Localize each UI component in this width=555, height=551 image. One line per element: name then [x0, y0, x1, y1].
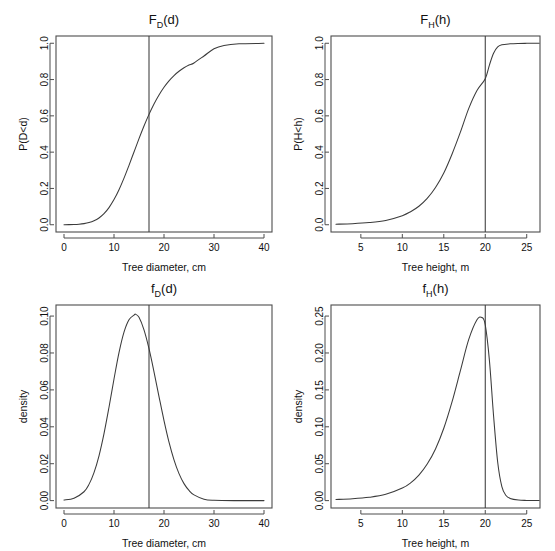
x-tick-label: 15 [438, 242, 450, 253]
data-curve [64, 43, 264, 224]
y-tick-label: 0.6 [314, 108, 325, 122]
plot-box [56, 36, 272, 232]
x-tick-label: 5 [358, 518, 364, 529]
panel-title: fD(d) [151, 281, 177, 299]
x-tick-label: 40 [258, 518, 270, 529]
y-tick-label: 0.0 [39, 217, 50, 231]
x-axis-label: Tree height, m [402, 261, 470, 273]
y-tick-label: 0.2 [314, 181, 325, 195]
y-axis-label: P(H<h) [292, 117, 304, 151]
x-tick-label: 20 [158, 242, 170, 253]
y-axis-label: P(D<d) [17, 117, 29, 151]
y-axis-label: density [292, 389, 304, 423]
x-tick-label: 0 [61, 518, 67, 529]
x-tick-label: 25 [521, 518, 533, 529]
y-tick-label: 0.04 [39, 417, 50, 437]
y-tick-label: 0.15 [314, 380, 325, 400]
y-tick-label: 0.08 [39, 343, 50, 363]
panel-title: fH(h) [422, 281, 448, 299]
x-tick-label: 20 [480, 518, 492, 529]
plot-box [331, 305, 540, 508]
y-tick-label: 0.05 [314, 454, 325, 474]
y-tick-label: 0.25 [314, 306, 325, 326]
panel-title: FD(d) [149, 12, 179, 30]
plot-box [56, 305, 272, 508]
data-curve [64, 314, 264, 501]
panel-title-base: F [149, 12, 157, 27]
panel-title: FH(h) [420, 12, 450, 30]
y-axis-label: density [17, 389, 29, 423]
x-tick-label: 40 [258, 242, 270, 253]
x-tick-label: 10 [108, 518, 120, 529]
x-tick-label: 10 [397, 242, 409, 253]
y-tick-label: 1.0 [314, 36, 325, 50]
y-tick-label: 0.2 [39, 181, 50, 195]
y-tick-label: 0.02 [39, 454, 50, 474]
y-tick-label: 0.4 [314, 145, 325, 159]
y-tick-label: 0.10 [39, 306, 50, 326]
x-tick-label: 10 [108, 242, 120, 253]
panel-pdf-height-svg: 5101520250.000.050.100.150.200.25fH(h)Tr… [278, 276, 555, 551]
y-tick-label: 0.8 [314, 72, 325, 86]
panel-title-base: F [420, 12, 428, 27]
panel-title-tail: (d) [163, 12, 179, 27]
x-tick-label: 0 [61, 242, 67, 253]
y-tick-label: 0.00 [39, 490, 50, 510]
x-tick-label: 15 [438, 518, 450, 529]
x-tick-label: 20 [480, 242, 492, 253]
x-tick-label: 30 [208, 242, 220, 253]
y-tick-label: 0.8 [39, 72, 50, 86]
panel-pdf-diameter: 0102030400.000.020.040.060.080.10fD(d)Tr… [0, 276, 277, 551]
panel-pdf-diameter-svg: 0102030400.000.020.040.060.080.10fD(d)Tr… [0, 276, 277, 551]
figure-canvas: 0102030400.00.20.40.60.81.0FD(d)Tree dia… [0, 0, 555, 551]
panel-title-tail: (d) [161, 281, 177, 296]
x-tick-label: 25 [521, 242, 533, 253]
y-tick-label: 0.4 [39, 145, 50, 159]
data-curve [336, 43, 539, 224]
x-axis-label: Tree diameter, cm [122, 261, 206, 273]
panel-cdf-diameter-svg: 0102030400.00.20.40.60.81.0FD(d)Tree dia… [0, 0, 277, 275]
panel-title-tail: (h) [433, 281, 449, 296]
y-tick-label: 0.0 [314, 217, 325, 231]
x-tick-label: 30 [208, 518, 220, 529]
x-axis-label: Tree diameter, cm [122, 537, 206, 549]
y-tick-label: 0.10 [314, 417, 325, 437]
plot-box [331, 36, 540, 232]
y-tick-label: 0.6 [39, 108, 50, 122]
y-tick-label: 1.0 [39, 36, 50, 50]
panel-cdf-diameter: 0102030400.00.20.40.60.81.0FD(d)Tree dia… [0, 0, 277, 275]
y-tick-label: 0.06 [39, 380, 50, 400]
panel-pdf-height: 5101520250.000.050.100.150.200.25fH(h)Tr… [278, 276, 555, 551]
x-tick-label: 5 [358, 242, 364, 253]
data-curve [336, 317, 539, 501]
panel-cdf-height: 5101520250.00.20.40.60.81.0FH(h)Tree hei… [278, 0, 555, 275]
x-tick-label: 10 [397, 518, 409, 529]
panel-title-tail: (h) [435, 12, 451, 27]
panel-cdf-height-svg: 5101520250.00.20.40.60.81.0FH(h)Tree hei… [278, 0, 555, 275]
y-tick-label: 0.20 [314, 343, 325, 363]
y-tick-label: 0.00 [314, 490, 325, 510]
x-tick-label: 20 [158, 518, 170, 529]
x-axis-label: Tree height, m [402, 537, 470, 549]
